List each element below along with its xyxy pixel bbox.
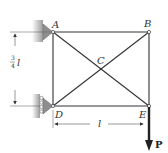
- truss-members: [53, 32, 149, 106]
- roller-icon: [40, 105, 43, 108]
- label-a: A: [51, 19, 59, 30]
- joint-a: [51, 30, 54, 33]
- dim-horizontal-symbol: l: [98, 118, 101, 129]
- arrow-down-icon: [145, 140, 153, 151]
- label-d: D: [54, 109, 63, 120]
- roller-icon: [40, 101, 43, 104]
- roller-icon: [40, 96, 43, 99]
- joint-d: [51, 104, 54, 107]
- roller-icon: [40, 110, 43, 113]
- dim-denominator: 4: [11, 62, 15, 69]
- horizontal-dimension: l: [53, 110, 143, 129]
- dim-vertical-symbol: l: [17, 57, 20, 68]
- wall-support-a: [32, 20, 53, 42]
- truss-diagram: A B C D E 3 4 l l P: [0, 0, 168, 153]
- load-p: P: [145, 107, 163, 151]
- load-label: P: [155, 139, 163, 150]
- joint-b: [147, 30, 150, 33]
- label-c: C: [97, 55, 105, 66]
- dim-numerator: 3: [11, 54, 15, 61]
- vertical-dimension: 3 4 l: [10, 32, 50, 106]
- label-e: E: [138, 109, 147, 120]
- label-b: B: [143, 18, 151, 29]
